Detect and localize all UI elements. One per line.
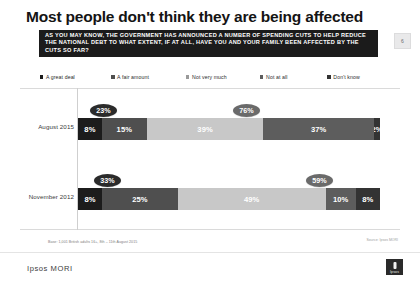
bar-segment-not-very-much[interactable]: 39% (147, 118, 264, 140)
legend-label: A fair amount (117, 74, 149, 80)
question-band: AS YOU MAY KNOW, THE GOVERNMENT HAS ANNO… (39, 30, 378, 57)
legend-swatch-icon (40, 75, 43, 78)
bar-segment-a-fair-amount[interactable]: 25% (102, 188, 178, 210)
legend-swatch-icon (260, 75, 263, 78)
legend-item-dont-know[interactable]: Don't know (327, 74, 385, 80)
bar-segment-a-great-deal[interactable]: 8% (78, 118, 102, 140)
row-category-label: August 2015 (4, 123, 74, 130)
bar-segment-value: 8% (84, 195, 95, 204)
bar-segment-not-at-all[interactable]: 10% (326, 188, 356, 210)
bar-segment-not-at-all[interactable]: 37% (263, 118, 374, 140)
callout-value: 23% (96, 106, 111, 115)
legend-item-not-very-much[interactable]: Not very much (186, 74, 260, 80)
callout-bubble-august-net-affected: 23% (90, 104, 117, 117)
chart-legend: A great deal A fair amount Not very much… (40, 72, 385, 82)
legend-label: Not at all (266, 74, 287, 80)
slide: Most people don't think they are being a… (0, 0, 420, 281)
callout-value: 33% (100, 176, 115, 185)
ipsos-logo-icon: Ipsos (386, 259, 403, 275)
bar-segment-value: 39% (197, 125, 213, 134)
legend-item-a-great-deal[interactable]: A great deal (40, 74, 111, 80)
bar-segment-not-very-much[interactable]: 49% (178, 188, 326, 210)
callout-bubble-november-net-not-affected: 59% (306, 174, 333, 187)
page-title: Most people don't think they are being a… (26, 8, 396, 26)
stacked-bar: 8% 15% 39% 37% 2% (78, 118, 380, 140)
bar-segment-value: 8% (84, 125, 95, 134)
page-number-chip: 6 (394, 33, 411, 49)
question-text: AS YOU MAY KNOW, THE GOVERNMENT HAS ANNO… (45, 32, 372, 54)
stacked-bar: 8% 25% 49% 10% 8% (78, 188, 380, 210)
legend-label: A great deal (46, 74, 75, 80)
legend-item-a-fair-amount[interactable]: A fair amount (111, 74, 186, 80)
bar-segment-value: 8% (362, 195, 373, 204)
chart-source-note: Source: Ipsos MORI (367, 238, 398, 242)
legend-label: Not very much (192, 74, 227, 80)
bar-segment-value: 25% (132, 195, 148, 204)
row-category-label: November 2012 (4, 193, 74, 200)
bar-segment-value: 37% (311, 125, 327, 134)
bar-segment-dont-know[interactable]: 2% (374, 118, 380, 140)
chart-row-august-2015: August 2015 8% 15% 39% 37% 2% (0, 118, 420, 140)
callout-bubble-august-net-not-affected: 76% (233, 104, 260, 117)
bar-segment-a-great-deal[interactable]: 8% (78, 188, 102, 210)
callout-value: 59% (312, 176, 327, 185)
bar-segment-dont-know[interactable]: 8% (356, 188, 380, 210)
logo-label: Ipsos (390, 270, 399, 274)
callout-value: 76% (239, 106, 254, 115)
callout-bubble-november-net-affected: 33% (94, 174, 121, 187)
footer-divider (0, 252, 420, 253)
legend-swatch-icon (111, 75, 114, 78)
bar-segment-value: 10% (333, 195, 349, 204)
bar-segment-value: 15% (117, 125, 133, 134)
legend-swatch-icon (186, 75, 189, 78)
bar-segment-a-fair-amount[interactable]: 15% (102, 118, 147, 140)
bar-segment-value: 49% (244, 195, 260, 204)
chart-row-november-2012: November 2012 8% 25% 49% 10% 8% (0, 188, 420, 210)
chart-base-footnote: Base: 1,001 British adults 16+, 8th – 11… (48, 240, 137, 244)
page-number-label: 6 (401, 38, 404, 44)
legend-label: Don't know (333, 74, 360, 80)
bar-segment-value: 2% (374, 125, 380, 134)
brand-wordmark: Ipsos MORI (27, 264, 73, 273)
legend-swatch-icon (327, 75, 330, 78)
legend-item-not-at-all[interactable]: Not at all (260, 74, 327, 80)
